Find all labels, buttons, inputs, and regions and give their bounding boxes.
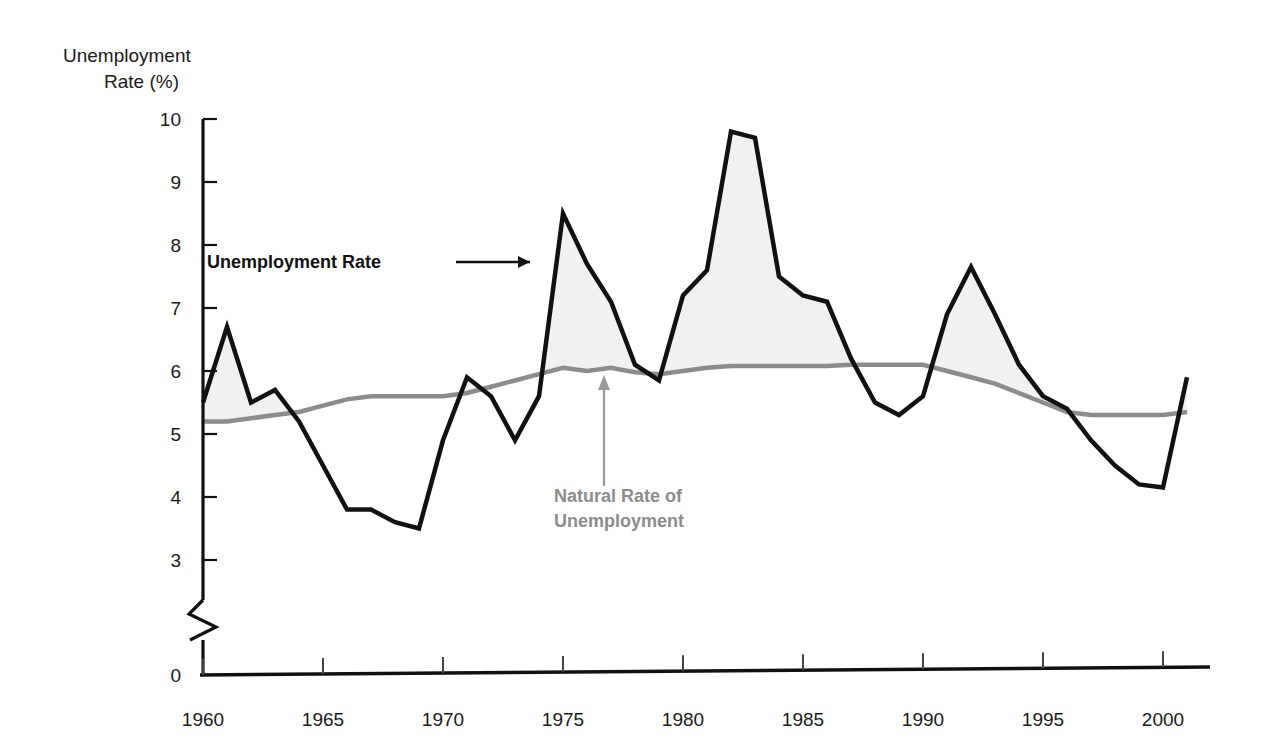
x-tick-label: 1980 <box>662 709 704 730</box>
y-tick-label: 8 <box>170 235 181 256</box>
y-tick-label: 4 <box>170 487 181 508</box>
gap-fill-region <box>932 267 1070 412</box>
annotation-natural-rate-label-line1: Natural Rate of <box>554 486 683 506</box>
x-axis-line <box>200 667 1210 675</box>
y-tick-label: 5 <box>170 424 181 445</box>
x-tick-label: 2000 <box>1142 709 1184 730</box>
annotation-natural-rate-label-line2: Unemployment <box>554 511 684 531</box>
annotation-unemployment-rate: Unemployment Rate <box>207 252 530 272</box>
chart-tick-labels: 0345678910196019651970197519801985199019… <box>160 109 1184 730</box>
y-axis-break-symbol <box>189 600 216 640</box>
y-axis-title-line1: Unemployment <box>63 45 191 66</box>
y-tick-label: 7 <box>170 298 181 319</box>
y-axis-title-line2: Rate (%) <box>104 71 179 92</box>
x-tick-label: 1995 <box>1022 709 1064 730</box>
annotation-arrow-head-up <box>598 375 610 390</box>
annotation-arrow-head-right <box>518 256 530 268</box>
x-tick-label: 1960 <box>182 709 224 730</box>
chart-axes <box>189 119 1210 675</box>
x-tick-label: 1965 <box>302 709 344 730</box>
unemployment-rate-chart: Unemployment Rate (%) 034567891019601965… <box>0 0 1267 756</box>
y-tick-label: 9 <box>170 172 181 193</box>
x-tick-label: 1990 <box>902 709 944 730</box>
gap-fill-region <box>203 327 292 422</box>
y-tick-label: 6 <box>170 361 181 382</box>
y-tick-label: 0 <box>170 665 181 686</box>
shaded-gap-area <box>203 132 1187 422</box>
chart-canvas: Unemployment Rate (%) 034567891019601965… <box>0 0 1267 756</box>
y-tick-label: 3 <box>170 550 181 571</box>
x-tick-label: 1985 <box>782 709 824 730</box>
annotation-natural-rate: Natural Rate of Unemployment <box>554 375 684 531</box>
y-tick-label: 10 <box>160 109 181 130</box>
x-tick-label: 1975 <box>542 709 584 730</box>
x-tick-label: 1970 <box>422 709 464 730</box>
annotation-unemployment-rate-label: Unemployment Rate <box>207 252 381 272</box>
gap-fill-region <box>661 132 855 374</box>
